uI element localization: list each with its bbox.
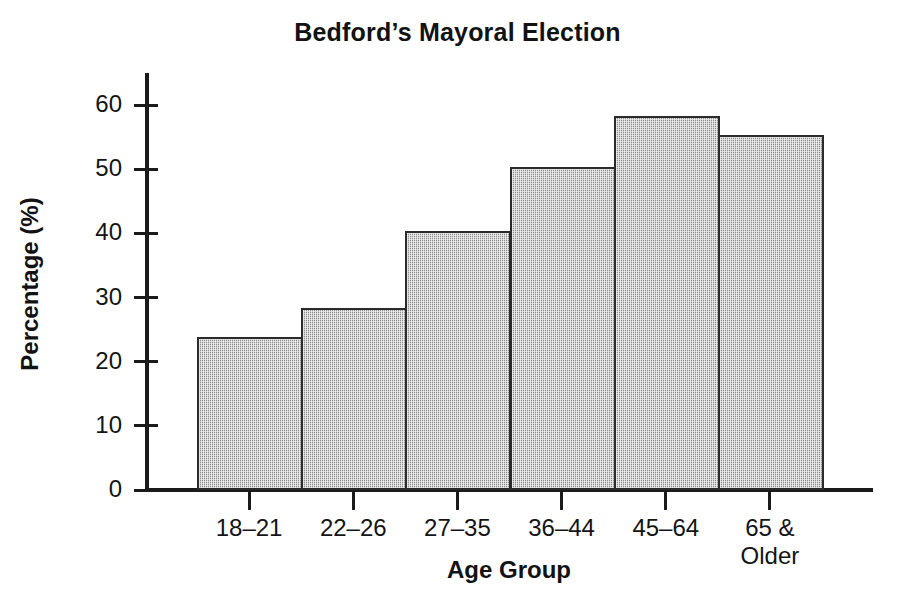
bar [197, 337, 303, 490]
x-axis-tick-label-line: Older [700, 542, 840, 570]
x-axis-tick [352, 492, 355, 510]
plot-area [145, 73, 873, 490]
y-axis-tick-label: 20 [52, 349, 122, 373]
x-axis-tick [456, 492, 459, 510]
chart-figure: Bedford’s Mayoral Election Percentage (%… [0, 0, 915, 604]
y-axis-tick-label: 30 [52, 285, 122, 309]
y-axis-title: Percentage (%) [16, 119, 44, 449]
x-axis-tick-label: 65 &Older [700, 514, 840, 571]
x-axis-tick [768, 492, 771, 510]
x-axis-tick [248, 492, 251, 510]
x-axis-tick [560, 492, 563, 510]
bar [301, 308, 407, 490]
y-axis-tick-label: 40 [52, 220, 122, 244]
x-axis-tick-label-line: 65 & [700, 514, 840, 542]
y-axis-tick-label: 60 [52, 92, 122, 116]
chart-title: Bedford’s Mayoral Election [0, 18, 915, 47]
x-axis-tick [664, 492, 667, 510]
y-axis-tick-label: 50 [52, 156, 122, 180]
bar [405, 231, 511, 490]
bar [614, 116, 720, 490]
bar [510, 167, 616, 490]
y-axis-tick-label: 10 [52, 413, 122, 437]
y-axis-tick-label: 0 [52, 477, 122, 501]
bar [718, 135, 824, 490]
